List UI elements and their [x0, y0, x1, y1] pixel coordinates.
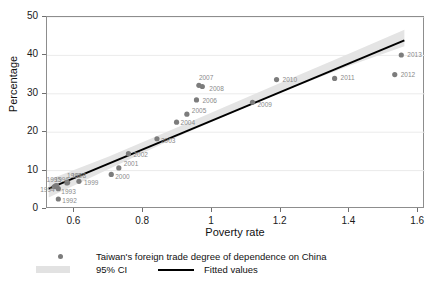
legend-label-fit: Fitted values [204, 263, 258, 276]
x-tick-mark [417, 208, 418, 212]
point-label-2003: 2003 [161, 137, 175, 144]
point-label-1999: 1999 [84, 179, 98, 186]
point-label-2007: 2007 [199, 74, 213, 81]
point-label-1992: 1992 [62, 197, 76, 204]
x-tick-label: 0.8 [122, 216, 162, 226]
x-tick-label: 1.4 [328, 216, 368, 226]
legend-row-scatter: Taiwan's foreign trade degree of depende… [58, 250, 398, 263]
x-tick-label: 1.2 [260, 216, 300, 226]
legend-line-icon [158, 269, 194, 271]
y-tick-mark [42, 208, 46, 209]
y-tick-label: 0 [12, 203, 38, 213]
chart-legend: Taiwan's foreign trade degree of depende… [58, 250, 398, 276]
y-tick-label: 20 [12, 126, 38, 136]
point-label-2010: 2010 [283, 76, 297, 83]
x-tick-label: 1 [191, 216, 231, 226]
x-tick-mark [348, 208, 349, 212]
point-label-2008: 2008 [209, 85, 223, 92]
x-tick-label: 0.6 [53, 216, 93, 226]
plot-area: 1992199319941995199619971998199920002001… [46, 16, 424, 208]
x-tick-mark [211, 208, 212, 212]
legend-row-ci-fit: 95% CI Fitted values [58, 263, 398, 276]
point-label-2000: 2000 [115, 173, 129, 180]
legend-label-ci: 95% CI [96, 263, 127, 276]
legend-label-scatter: Taiwan's foreign trade degree of depende… [96, 250, 327, 263]
point-label-2002: 2002 [133, 151, 147, 158]
chart-figure: Percentage 01020304050 19921993199419951… [0, 0, 434, 289]
point-label-2004: 2004 [181, 119, 195, 126]
point-label-2012: 2012 [401, 71, 415, 78]
fitted-line [49, 40, 405, 188]
point-label-2006: 2006 [202, 97, 216, 104]
point-label-2005: 2005 [192, 107, 206, 114]
y-tick-label: 40 [12, 49, 38, 59]
x-tick-mark [142, 208, 143, 212]
plot-canvas [47, 17, 425, 209]
gridlines [47, 17, 425, 171]
x-axis-title: Poverty rate [46, 226, 424, 238]
legend-band-icon [36, 266, 70, 273]
point-label-2013: 2013 [407, 51, 421, 58]
point-label-1998: 1998 [72, 172, 86, 179]
point-label-2009: 2009 [257, 101, 271, 108]
y-tick-label: 10 [12, 165, 38, 175]
y-tick-label: 30 [12, 88, 38, 98]
point-label-1994: 1994 [40, 186, 54, 193]
x-tick-mark [280, 208, 281, 212]
point-label-2001: 2001 [124, 160, 138, 167]
x-tick-mark [73, 208, 74, 212]
x-tick-label: 1.6 [397, 216, 434, 226]
legend-marker-icon [58, 254, 63, 259]
point-label-1993: 1993 [61, 188, 75, 195]
point-label-2011: 2011 [341, 74, 355, 81]
y-tick-label: 50 [12, 11, 38, 21]
